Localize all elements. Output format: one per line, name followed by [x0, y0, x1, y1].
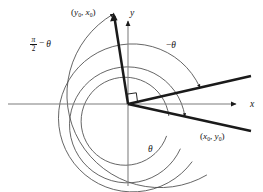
fraction-denominator: 2: [31, 45, 37, 53]
label-negative-angle: −θ: [166, 41, 176, 50]
y-axis-label: y: [130, 8, 134, 18]
diagram-svg: [0, 0, 263, 192]
paren-close: ): [93, 7, 96, 17]
fraction-numerator: π: [31, 36, 37, 44]
figure-canvas: (y0, x0) (x0, y0) π 2 − θ −θ θ x y: [0, 0, 263, 192]
paren-close: ): [222, 131, 225, 141]
ray-rotated-point: [114, 16, 128, 104]
minus-operator: −: [166, 40, 171, 50]
theta-symbol: θ: [46, 40, 51, 49]
label-positive-angle: θ: [148, 145, 153, 154]
ray-rotated-point-arrow: [110, 12, 118, 21]
minus-operator: −: [39, 39, 44, 48]
label-complement-angle: π 2 − θ: [30, 36, 51, 53]
theta-symbol: θ: [171, 40, 176, 50]
theta-symbol: θ: [148, 144, 153, 154]
arc-second: [58, 44, 199, 192]
label-original-point: (x0, y0): [200, 132, 225, 142]
x-axis-label: x: [250, 99, 254, 109]
ray-original-point: [128, 104, 251, 131]
fraction-pi-over-two: π 2: [30, 36, 37, 53]
label-rotated-point: (y0, x0): [71, 8, 96, 18]
ray-upper-right: [128, 76, 251, 104]
